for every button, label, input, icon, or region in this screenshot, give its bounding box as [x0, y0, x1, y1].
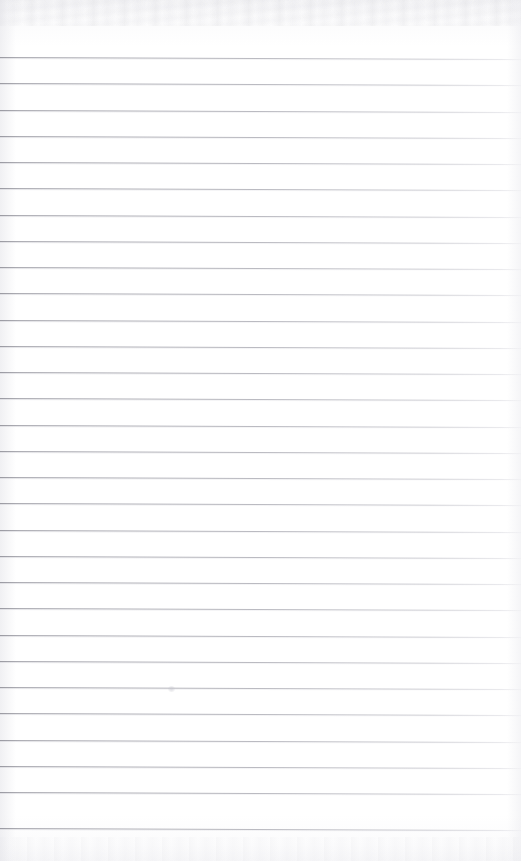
- scanned-page: Blank Ruled Notebook Page A scanned blan…: [0, 0, 521, 861]
- paper-background: [0, 0, 521, 861]
